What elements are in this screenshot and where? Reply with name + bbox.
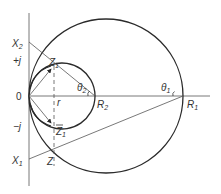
label-x2: X2 — [11, 38, 23, 50]
theta1-arc — [173, 92, 175, 97]
label-theta1: θ1 — [161, 82, 170, 94]
label-origin: 0 — [16, 91, 22, 102]
label-theta2: θ2 — [77, 82, 86, 94]
theta2-arc — [88, 91, 90, 96]
circle-diagram: X2 +j 0 −j X1 Z1 Z1 Z r θ2 R2 θ1 R1 — [0, 0, 221, 194]
label-z1: Z1 — [48, 57, 59, 69]
label-r1: R1 — [187, 99, 198, 111]
label-z: Z — [46, 156, 54, 167]
label-x1: X1 — [11, 155, 23, 167]
label-z1bar: Z1 — [55, 126, 66, 138]
label-minus-j: −j — [13, 121, 22, 132]
label-r2: R2 — [97, 99, 108, 111]
label-plus-j: +j — [13, 55, 22, 66]
label-r: r — [57, 97, 61, 108]
